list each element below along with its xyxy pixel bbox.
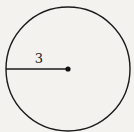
radius-label: 3: [35, 51, 43, 66]
center-point: [65, 66, 70, 71]
circle-diagram: 3: [0, 0, 134, 132]
